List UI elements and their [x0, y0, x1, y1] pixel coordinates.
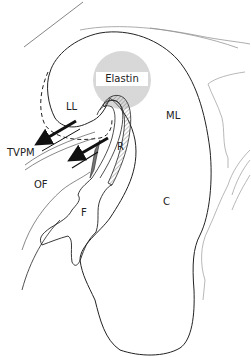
diagram-canvas: Elastin LL ML TVPM R OF F C: [0, 0, 251, 357]
label-ll: LL: [66, 102, 77, 112]
label-f: F: [81, 208, 87, 218]
label-of: OF: [34, 180, 48, 190]
label-tvpm: TVPM: [7, 148, 35, 158]
label-elastin: Elastin: [96, 72, 148, 86]
label-c: C: [163, 197, 170, 207]
top-left-line: [24, 2, 83, 47]
label-r: R: [117, 142, 124, 152]
label-ml: ML: [166, 111, 180, 121]
